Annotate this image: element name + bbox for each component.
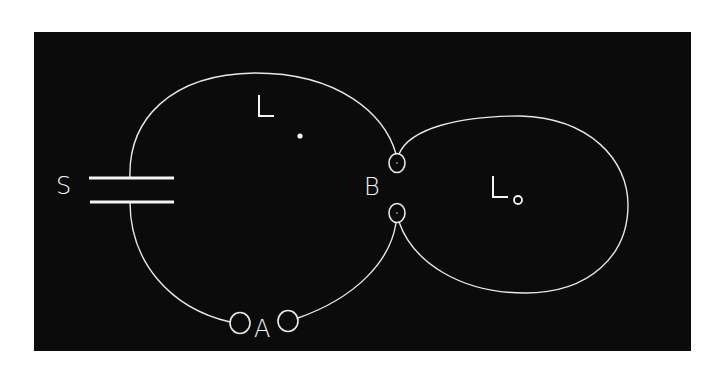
right-loop-arc	[399, 116, 628, 293]
diagram-canvas	[0, 0, 717, 374]
label-source-s: S	[56, 174, 71, 198]
left-loop-upper-arc	[130, 73, 396, 178]
label-junction-a: A	[254, 317, 270, 341]
loop-l-point-dot	[297, 133, 302, 138]
junction-a-left-circle	[230, 313, 250, 334]
junction-a-right-circle	[278, 311, 298, 332]
junction-b-upper-center-dot	[396, 162, 398, 164]
left-loop-lower-left-arc	[130, 202, 230, 322]
label-l-glyph	[259, 96, 273, 116]
label-l0-subscript-circle	[514, 196, 522, 204]
label-junction-b: B	[364, 175, 380, 199]
junction-b-lower-center-dot	[396, 212, 398, 214]
diagram-figure: S B A	[0, 0, 717, 374]
left-loop-lower-right-arc	[298, 223, 396, 318]
label-l0-glyph	[493, 177, 507, 197]
